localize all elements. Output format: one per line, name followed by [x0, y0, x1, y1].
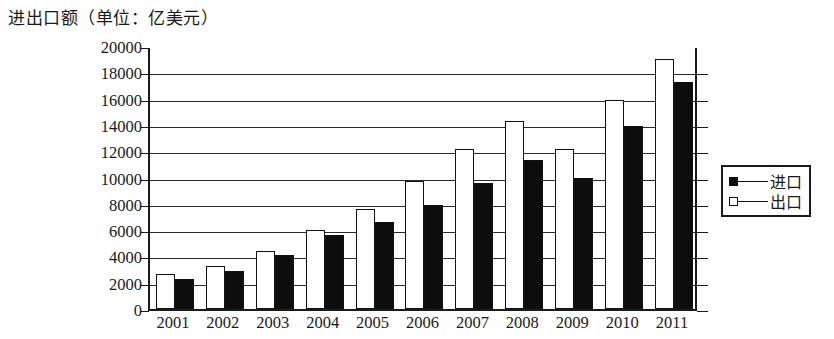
- bar-group: [449, 48, 499, 309]
- x-axis-tick-label: 2008: [506, 313, 539, 333]
- bar-export: [505, 121, 524, 309]
- bar-export: [555, 149, 574, 309]
- y-axis-tick-mark: [141, 311, 149, 312]
- x-axis-tick-label: 2004: [306, 313, 339, 333]
- bar-export: [206, 266, 225, 309]
- bar-import: [424, 205, 443, 309]
- x-axis-tick-label: 2006: [406, 313, 439, 333]
- x-axis-tick-label: 2007: [456, 313, 489, 333]
- bar-import: [674, 82, 693, 309]
- bar-group: [400, 48, 450, 309]
- chart-title: 进出口额（单位：亿美元）: [8, 4, 218, 29]
- x-axis-tick-label: 2001: [156, 313, 189, 333]
- hollow-square-icon: [729, 197, 738, 206]
- legend-line: [738, 201, 768, 202]
- x-axis-tick-label: 2003: [256, 313, 289, 333]
- bar-group: [300, 48, 350, 309]
- y-axis-tick-label: 2000: [109, 275, 142, 295]
- chart-legend: 进口出口: [721, 165, 811, 217]
- x-axis-tick-label: 2002: [206, 313, 239, 333]
- bar-export: [306, 230, 325, 309]
- bar-import: [524, 160, 543, 309]
- y-axis-tick-mark-right: [697, 311, 708, 312]
- x-axis-tick-label: 2005: [356, 313, 389, 333]
- bar-import: [375, 222, 394, 309]
- bar-group: [599, 48, 649, 309]
- bar-group: [250, 48, 300, 309]
- bar-export: [356, 209, 375, 309]
- bar-export: [605, 100, 624, 309]
- bar-group: [200, 48, 250, 309]
- bar-export: [655, 59, 674, 309]
- bar-export: [156, 274, 175, 310]
- bar-export: [405, 181, 424, 309]
- bar-import: [175, 279, 194, 309]
- y-axis-tick-label: 20000: [101, 38, 142, 58]
- y-axis-tick-label: 12000: [101, 143, 142, 163]
- legend-label: 出口: [770, 189, 802, 213]
- y-axis-tick-label: 14000: [101, 117, 142, 137]
- bar-group: [350, 48, 400, 309]
- bar-group: [150, 48, 200, 309]
- bar-export: [256, 251, 275, 309]
- plot-area: [148, 48, 697, 311]
- bar-import: [325, 235, 344, 309]
- bar-group: [499, 48, 549, 309]
- x-axis-tick-label: 2010: [606, 313, 639, 333]
- y-axis-labels: 0200040006000800010000120001400016000180…: [78, 48, 142, 311]
- bar-import: [275, 255, 294, 309]
- y-axis-tick-label: 18000: [101, 64, 142, 84]
- bar-import: [574, 178, 593, 310]
- x-axis-tick-label: 2011: [656, 313, 688, 333]
- y-axis-tick-label: 8000: [109, 196, 142, 216]
- y-axis-tick-label: 6000: [109, 222, 142, 242]
- bar-import: [474, 183, 493, 309]
- bar-group: [649, 48, 699, 309]
- x-axis-tick-label: 2009: [556, 313, 589, 333]
- bar-import: [225, 271, 244, 309]
- filled-square-icon: [729, 177, 738, 186]
- y-axis-tick-label: 16000: [101, 91, 142, 111]
- bar-export: [455, 149, 474, 309]
- y-axis-tick-label: 10000: [101, 170, 142, 190]
- legend-item: 进口: [729, 171, 802, 191]
- y-axis-tick-label: 4000: [109, 248, 142, 268]
- x-axis-labels: 2001200220032004200520062007200820092010…: [148, 313, 697, 339]
- legend-line: [738, 181, 768, 182]
- legend-item: 出口: [729, 191, 802, 211]
- bar-import: [624, 126, 643, 309]
- bar-group: [549, 48, 599, 309]
